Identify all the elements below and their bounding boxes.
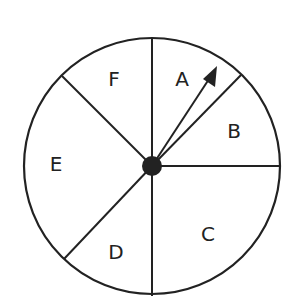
section-label-a: A xyxy=(175,67,189,91)
section-label-f: F xyxy=(108,67,120,91)
spinner-hub xyxy=(142,156,162,176)
spinner-diagram: A B C D E F xyxy=(0,0,287,308)
section-label-b: B xyxy=(227,119,241,143)
section-label-d: D xyxy=(108,240,123,264)
section-label-c: C xyxy=(201,222,215,246)
section-label-e: E xyxy=(50,152,63,176)
